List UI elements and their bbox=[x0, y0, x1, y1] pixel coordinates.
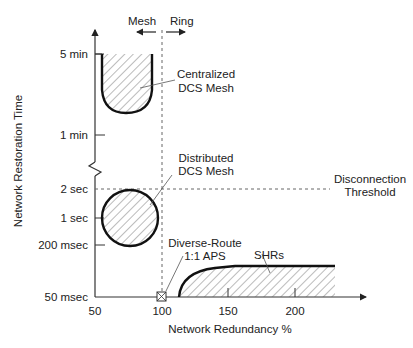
aps-marker-icon bbox=[157, 292, 166, 301]
diverse-route-label-2: 1:1 APS bbox=[160, 250, 250, 263]
y-axis-label: Network Restoration Time bbox=[12, 91, 24, 231]
y-tick-50msec: 50 msec bbox=[20, 291, 88, 304]
y-tick-2sec: 2 sec bbox=[20, 183, 88, 196]
y-tick-1min: 1 min bbox=[20, 129, 88, 142]
distributed-label-2: DCS Mesh bbox=[166, 165, 246, 178]
y-tick-1sec: 1 sec bbox=[20, 212, 88, 225]
distributed-leader bbox=[150, 175, 172, 205]
distributed-label-1: Distributed bbox=[166, 152, 246, 165]
centralized-dcs-region bbox=[102, 54, 152, 113]
y-tick-200msec: 200 msec bbox=[20, 239, 88, 252]
x-axis-label: Network Redundancy % bbox=[160, 323, 300, 336]
x-tick-100: 100 bbox=[145, 305, 179, 318]
x-tick-50: 50 bbox=[78, 305, 112, 318]
threshold-label-1: Disconnection bbox=[330, 173, 410, 186]
centralized-label-1: Centralized bbox=[166, 68, 246, 81]
diverse-route-label-1: Diverse-Route bbox=[160, 237, 250, 250]
x-tick-200: 200 bbox=[278, 305, 312, 318]
shrs-label: SHRs bbox=[254, 249, 284, 262]
distributed-dcs-region bbox=[102, 190, 158, 246]
threshold-label-2: Threshold bbox=[330, 186, 410, 199]
mesh-label: Mesh bbox=[128, 15, 156, 28]
ring-label: Ring bbox=[170, 15, 194, 28]
x-tick-150: 150 bbox=[211, 305, 245, 318]
centralized-label-2: DCS Mesh bbox=[166, 82, 246, 95]
y-tick-5min: 5 min bbox=[20, 48, 88, 61]
